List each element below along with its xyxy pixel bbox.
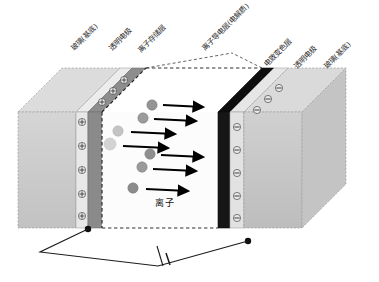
electrochromic-device-diagram: 玻璃(基底) 透明电极 离子存储层 离子导电层(电解质) 电致变色层 透明电极 … xyxy=(0,0,379,282)
positive-charge-symbol xyxy=(78,190,85,197)
ion-storage-front-face xyxy=(88,112,102,228)
ion-sphere xyxy=(113,126,123,136)
positive-charge-symbol xyxy=(120,76,127,83)
positive-charge-symbol xyxy=(109,87,116,94)
label-ions: 离子 xyxy=(155,196,175,209)
negative-charge-symbol xyxy=(233,169,240,176)
positive-charge-symbol xyxy=(78,142,85,149)
negative-charge-symbol xyxy=(233,123,240,130)
ion-sphere xyxy=(138,113,148,123)
ion-sphere xyxy=(104,138,116,150)
diagram-canvas xyxy=(0,0,379,282)
positive-charge-symbol xyxy=(78,212,85,219)
positive-charge-symbol xyxy=(78,118,85,125)
negative-charge-symbol xyxy=(233,214,240,221)
glass-left-front-face xyxy=(18,112,76,228)
positive-charge-symbol xyxy=(98,98,105,105)
leader-ion-conductor xyxy=(146,53,232,68)
negative-charge-symbol xyxy=(253,106,260,113)
electrochromic-front-face xyxy=(218,112,230,228)
circuit-wire xyxy=(40,229,248,266)
negative-charge-symbol xyxy=(233,192,240,199)
ion-sphere xyxy=(147,100,157,110)
positive-charge-symbol xyxy=(78,166,85,173)
negative-charge-symbol xyxy=(233,146,240,153)
battery-long-plate xyxy=(157,246,163,266)
negative-charge-symbol xyxy=(264,95,271,102)
ion-sphere xyxy=(137,162,147,172)
external-circuit xyxy=(40,226,251,266)
negative-charge-symbol xyxy=(275,84,282,91)
ion-sphere xyxy=(145,149,155,159)
ion-sphere xyxy=(128,183,138,193)
leader-ion-conductor-right xyxy=(232,53,262,68)
leader-line-group xyxy=(146,53,262,68)
glass-right-front-face xyxy=(244,112,302,228)
